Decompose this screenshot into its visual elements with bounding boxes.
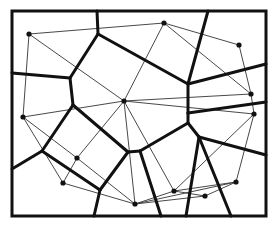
background <box>0 0 278 229</box>
voronoi-edge <box>97 11 98 34</box>
site-point-p7 <box>20 114 25 119</box>
site-point-p11 <box>202 193 207 198</box>
site-point-p10 <box>171 188 176 193</box>
site-point-p13 <box>132 201 137 206</box>
site-point-p6 <box>121 98 126 103</box>
site-point-p1 <box>26 31 31 36</box>
site-point-p9 <box>60 180 65 185</box>
voronoi-delaunay-diagram <box>0 0 278 229</box>
site-point-p4 <box>248 91 253 96</box>
site-point-p3 <box>236 42 241 47</box>
site-point-p2 <box>161 20 166 25</box>
site-point-p5 <box>251 111 256 116</box>
site-point-p8 <box>74 155 79 160</box>
site-point-p12 <box>233 179 238 184</box>
voronoi-edge <box>128 151 140 152</box>
